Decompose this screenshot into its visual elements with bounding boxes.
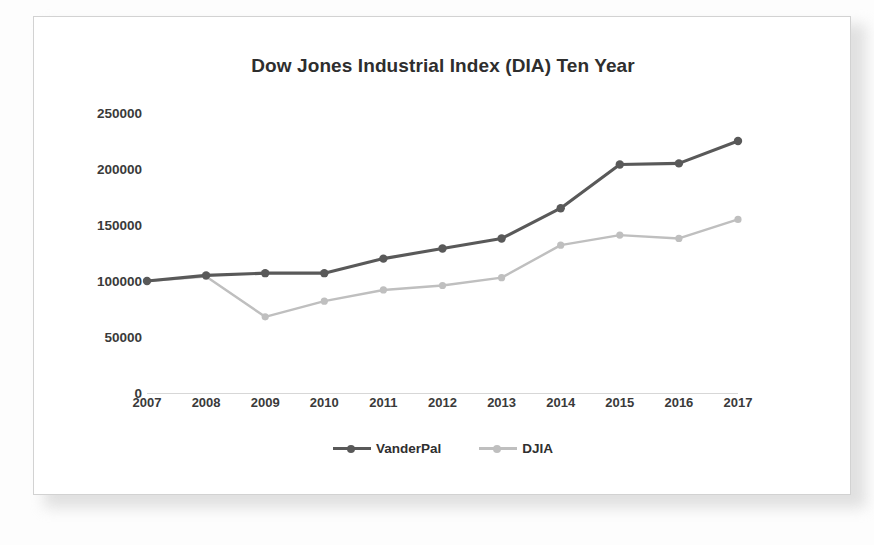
chart-plot-svg <box>34 17 852 496</box>
data-point-marker <box>734 137 742 145</box>
data-point-marker <box>143 277 151 285</box>
legend-item[interactable]: DJIA <box>479 441 553 456</box>
data-point-marker <box>734 216 741 223</box>
x-axis-tick-label: 2015 <box>588 395 652 410</box>
legend-label: VanderPal <box>376 441 441 456</box>
data-point-marker <box>379 254 387 262</box>
data-point-marker <box>320 269 328 277</box>
x-axis-tick-label: 2009 <box>233 395 297 410</box>
series-line-djia <box>147 219 738 316</box>
data-point-marker <box>380 286 387 293</box>
data-point-marker <box>261 269 269 277</box>
data-point-marker <box>438 244 446 252</box>
x-axis-tick-label: 2008 <box>174 395 238 410</box>
x-axis-tick-label: 2014 <box>529 395 593 410</box>
data-point-marker <box>497 234 505 242</box>
chart-card: Dow Jones Industrial Index (DIA) Ten Yea… <box>34 17 852 496</box>
x-axis-tick-label: 2012 <box>411 395 475 410</box>
data-point-marker <box>616 160 624 168</box>
data-point-marker <box>557 242 564 249</box>
x-axis-tick-label: 2011 <box>351 395 415 410</box>
x-axis-tick-label: 2007 <box>115 395 179 410</box>
x-axis-tick-label: 2017 <box>706 395 770 410</box>
data-point-marker <box>439 282 446 289</box>
series-line-vanderpal <box>147 141 738 281</box>
plot-area: 250000200000150000100000500000 200720082… <box>34 17 852 496</box>
x-axis-tick-labels: 2007200820092010201120122013201420152016… <box>34 395 852 419</box>
data-point-marker <box>616 231 623 238</box>
x-axis-tick-label: 2016 <box>647 395 711 410</box>
data-point-marker <box>675 159 683 167</box>
scanned-page: Dow Jones Industrial Index (DIA) Ten Yea… <box>0 0 874 545</box>
data-point-marker <box>675 235 682 242</box>
x-axis-tick-label: 2010 <box>292 395 356 410</box>
chart-frame: Dow Jones Industrial Index (DIA) Ten Yea… <box>33 16 851 495</box>
chart-legend: VanderPalDJIA <box>34 441 852 456</box>
data-point-marker <box>498 274 505 281</box>
data-point-marker <box>262 313 269 320</box>
legend-swatch-icon <box>333 443 371 454</box>
data-point-marker <box>557 204 565 212</box>
legend-label: DJIA <box>522 441 553 456</box>
series-group <box>143 137 742 321</box>
legend-swatch-icon <box>479 443 517 454</box>
data-point-marker <box>202 271 210 279</box>
x-axis-tick-label: 2013 <box>470 395 534 410</box>
data-point-marker <box>321 298 328 305</box>
legend-item[interactable]: VanderPal <box>333 441 441 456</box>
